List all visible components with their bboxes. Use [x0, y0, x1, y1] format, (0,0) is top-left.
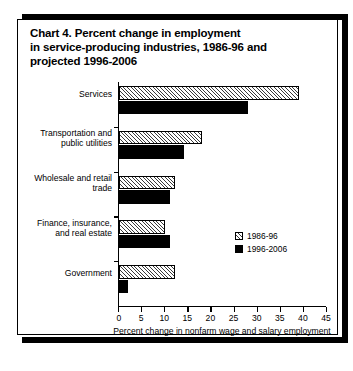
- bar-group-government: [118, 261, 326, 306]
- bar-transportation-1996-2006: [119, 145, 184, 159]
- x-axis-label-40: 40: [298, 313, 308, 323]
- bar-group-finance: [118, 216, 326, 261]
- x-axis-tick-15: [187, 307, 188, 312]
- legend-label-1996-2006: 1996-2006: [247, 244, 287, 254]
- bar-government-1986-96: [119, 265, 175, 279]
- bar-transportation-1986-96: [119, 131, 202, 145]
- x-axis-label-5: 5: [139, 313, 144, 323]
- legend-label-1986-96: 1986-96: [247, 231, 278, 241]
- bar-services-1996-2006: [119, 101, 248, 115]
- category-label-transportation: Transportation and public utilities: [0, 128, 112, 149]
- x-axis-label-0: 0: [117, 313, 122, 323]
- legend-item-1986-96: 1986-96: [235, 230, 287, 241]
- x-axis-tick-5: [141, 307, 142, 312]
- bar-group-wholesale: [118, 172, 326, 217]
- x-axis-caption: Percent change in nonfarm wage and salar…: [113, 326, 330, 336]
- x-axis-label-45: 45: [321, 313, 331, 323]
- bar-group-transportation: [118, 127, 326, 172]
- x-axis-label-15: 15: [183, 313, 193, 323]
- bar-group-services: [118, 82, 326, 127]
- bar-finance-1996-2006: [119, 235, 170, 249]
- x-axis-tick-30: [257, 307, 258, 312]
- x-axis-tick-35: [280, 307, 281, 312]
- x-axis-label-35: 35: [275, 313, 285, 323]
- category-label-government: Government: [0, 268, 112, 278]
- x-axis-label-20: 20: [206, 313, 216, 323]
- bar-finance-1986-96: [119, 220, 165, 234]
- chart-title: Chart 4. Percent change in employment in…: [30, 26, 330, 69]
- x-axis-label-10: 10: [159, 313, 169, 323]
- bar-government-1996-2006: [119, 280, 128, 294]
- x-axis-tick-10: [164, 307, 165, 312]
- category-label-services: Services: [0, 89, 112, 99]
- chart-title-line-1: Chart 4. Percent change in employment: [30, 26, 330, 40]
- x-axis-tick-0: [118, 307, 119, 312]
- x-axis-tick-25: [234, 307, 235, 312]
- category-label-wholesale: Wholesale and retail trade: [0, 173, 112, 194]
- frame-shadow-bottom: [22, 337, 348, 343]
- x-axis-tick-45: [326, 307, 327, 312]
- category-label-finance: Finance, insurance, and real estate: [0, 218, 112, 239]
- legend-item-1996-2006: 1996-2006: [235, 243, 287, 254]
- x-axis-label-30: 30: [252, 313, 262, 323]
- x-axis-tick-40: [303, 307, 304, 312]
- x-axis-label-25: 25: [229, 313, 239, 323]
- bar-wholesale-1986-96: [119, 176, 175, 190]
- legend-swatch-solid-icon: [235, 245, 243, 253]
- x-axis-tick-20: [210, 307, 211, 312]
- chart-legend: 1986-96 1996-2006: [235, 230, 287, 256]
- legend-swatch-hatched-icon: [235, 232, 243, 240]
- chart-title-line-2: in service-producing industries, 1986-96…: [30, 40, 330, 54]
- chart-panel: Chart 4. Percent change in employment in…: [17, 19, 338, 335]
- frame-shadow-right: [342, 14, 348, 343]
- chart-figure: Chart 4. Percent change in employment in…: [0, 0, 353, 371]
- x-axis-line: [118, 306, 326, 307]
- bar-wholesale-1996-2006: [119, 190, 170, 204]
- bar-services-1986-96: [119, 86, 299, 100]
- plot-area: Services Transportation and public utili…: [118, 82, 326, 306]
- chart-title-line-3: projected 1996-2006: [30, 54, 330, 68]
